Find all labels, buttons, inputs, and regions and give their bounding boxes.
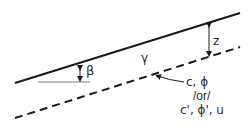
beta-label: β: [86, 64, 94, 77]
z-label: z: [213, 34, 220, 47]
strength-label-2: /or/: [193, 90, 210, 102]
ground-surface-line: [15, 13, 240, 83]
strength-leader-arrow: [158, 76, 184, 82]
gamma-label: γ: [141, 52, 148, 64]
strength-label-3: c', ϕ', u: [180, 104, 224, 116]
strength-label-1: c, ϕ: [186, 76, 208, 88]
